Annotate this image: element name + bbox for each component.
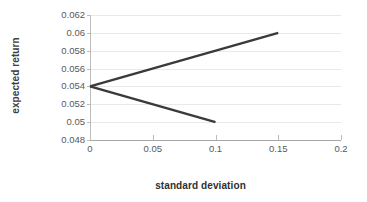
y-axis-title-label: expected return <box>10 37 21 114</box>
x-axis-tick-mark <box>341 135 342 140</box>
y-axis-tick-label: 0.06 <box>30 28 85 38</box>
x-axis-tick-label: 0.2 <box>311 143 367 155</box>
series-lines <box>90 15 341 140</box>
y-axis-tick-labels: 0.0480.050.0520.0540.0560.0580.060.062 <box>30 0 89 150</box>
series-line <box>90 33 278 87</box>
x-axis-line <box>90 140 341 141</box>
x-axis-tick-label: 0 <box>60 143 120 155</box>
x-axis-tick-label: 0.05 <box>123 143 183 155</box>
x-axis-tick-labels: 00.050.10.150.2 <box>90 143 367 159</box>
y-axis-title: expected return <box>0 0 30 150</box>
plot-area <box>90 15 341 140</box>
x-axis-tick-label: 0.1 <box>186 143 246 155</box>
series-line <box>90 86 216 122</box>
y-axis-tick-label: 0.054 <box>30 81 85 91</box>
y-axis-tick-label: 0.05 <box>30 117 85 127</box>
y-axis-tick-label: 0.052 <box>30 99 85 109</box>
x-axis-title: standard deviation <box>60 180 341 191</box>
y-axis-tick-label: 0.058 <box>30 46 85 56</box>
x-axis-tick-label: 0.15 <box>248 143 308 155</box>
y-axis-tick-label: 0.062 <box>30 10 85 20</box>
chart-figure: expected return 0.0480.050.0520.0540.056… <box>0 0 367 202</box>
y-axis-tick-label: 0.056 <box>30 64 85 74</box>
